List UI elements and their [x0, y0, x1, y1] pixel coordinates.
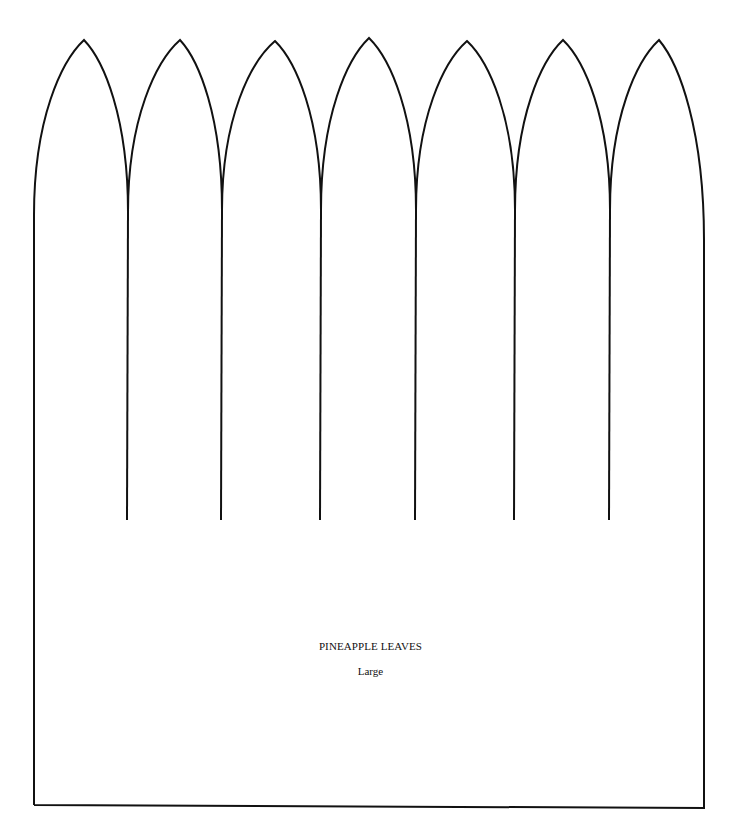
- template-sheet: PINEAPPLE LEAVES Large: [0, 0, 741, 837]
- leaf-cut-line: [127, 212, 128, 520]
- leaf-crown-outline: [34, 38, 704, 808]
- leaf-cut-lines: [127, 210, 610, 520]
- leaf-cut-line: [609, 210, 610, 520]
- template-title: PINEAPPLE LEAVES: [0, 640, 741, 652]
- template-size-label: Large: [0, 665, 741, 677]
- leaf-cut-line: [320, 210, 321, 520]
- leaf-cut-line: [514, 210, 515, 520]
- leaf-cut-line: [415, 210, 416, 520]
- leaf-cut-line: [221, 210, 222, 520]
- pineapple-leaves-outline: [0, 0, 741, 837]
